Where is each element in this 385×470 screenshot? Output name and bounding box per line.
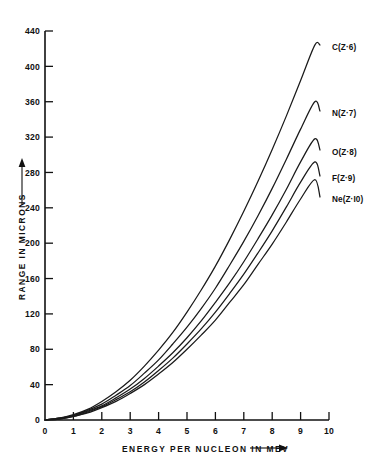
x-tick-label: 10 [324, 426, 334, 436]
y-tick-label: 40 [30, 380, 40, 390]
y-tick-label: 440 [25, 26, 40, 36]
y-tick-labels: 04080120160200240280320360400440 [25, 26, 40, 425]
y-tick-label: 400 [25, 62, 40, 72]
x-tick-label: 5 [185, 426, 190, 436]
x-tick-label: 4 [156, 426, 161, 436]
x-axis-title: ENERGY PER NUCLEON IN MEV [122, 444, 289, 454]
x-tick-marks [73, 412, 329, 420]
chart-canvas: 04080120160200240280320360400440 0123456… [0, 0, 385, 470]
series-label-o: O(Z·8) [332, 148, 357, 157]
curve-f [45, 162, 320, 420]
curve-c [45, 42, 320, 420]
range-energy-chart: 04080120160200240280320360400440 0123456… [0, 0, 385, 470]
y-tick-label: 120 [25, 309, 40, 319]
y-tick-label: 80 [30, 344, 40, 354]
y-tick-label: 280 [25, 168, 40, 178]
series-label-c: C(Z·6) [332, 43, 356, 52]
x-tick-label: 2 [99, 426, 104, 436]
x-tick-label: 1 [71, 426, 76, 436]
curve-n [45, 101, 320, 420]
curve-o [45, 139, 320, 420]
y-axis-title-text: RANGE IN MICRONS [17, 193, 27, 300]
series-label-f: F(Z·9) [332, 174, 356, 183]
y-tick-label: 200 [25, 238, 40, 248]
x-tick-label: 8 [270, 426, 275, 436]
y-tick-label: 240 [25, 203, 40, 213]
x-tick-label: 0 [43, 426, 48, 436]
y-axis-title: RANGE IN MICRONS [17, 158, 27, 300]
y-tick-label: 160 [25, 274, 40, 284]
x-axis-title-text: ENERGY PER NUCLEON IN MEV [122, 444, 289, 454]
x-tick-label: 7 [241, 426, 246, 436]
y-axis-arrow-head [19, 158, 26, 167]
x-tick-label: 3 [128, 426, 133, 436]
y-tick-label: 320 [25, 132, 40, 142]
curve-ne [45, 180, 320, 420]
series-label-n: N(Z·7) [332, 109, 356, 118]
data-curves [45, 42, 320, 420]
series-label-ne: Ne(Z·I0) [332, 195, 363, 204]
series-labels: C(Z·6)N(Z·7)O(Z·8)F(Z·9)Ne(Z·I0) [332, 43, 363, 204]
y-tick-marks [45, 31, 53, 385]
x-tick-label: 9 [298, 426, 303, 436]
x-tick-label: 6 [213, 426, 218, 436]
x-tick-labels: 012345678910 [43, 426, 334, 436]
y-tick-label: 360 [25, 97, 40, 107]
y-tick-label: 0 [35, 415, 40, 425]
